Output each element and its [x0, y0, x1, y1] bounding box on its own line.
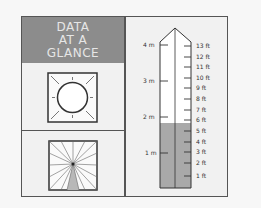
feet-label: 5 ft [196, 128, 206, 134]
feet-label: 1 ft [196, 173, 206, 179]
feet-label: 11 ft [196, 64, 210, 70]
metric-label: 3 m [143, 78, 155, 84]
feet-label: 9 ft [196, 85, 206, 91]
feet-label: 13 ft [196, 43, 210, 49]
feet-label: 6 ft [196, 117, 206, 123]
rays-sector-icon [49, 141, 97, 190]
depth-gauge [160, 28, 191, 188]
sun-icon [48, 73, 97, 122]
feet-label: 7 ft [196, 107, 206, 113]
feet-label: 10 ft [196, 75, 210, 81]
feet-label: 8 ft [196, 96, 206, 102]
diagram-graphics [0, 0, 261, 208]
feet-label: 4 ft [196, 139, 206, 145]
metric-label: 4 m [143, 42, 155, 48]
feet-label: 12 ft [196, 54, 210, 60]
metric-label: 1 m [145, 150, 157, 156]
metric-label: 2 m [143, 114, 155, 120]
feet-label: 2 ft [196, 160, 206, 166]
feet-label: 3 ft [196, 149, 206, 155]
